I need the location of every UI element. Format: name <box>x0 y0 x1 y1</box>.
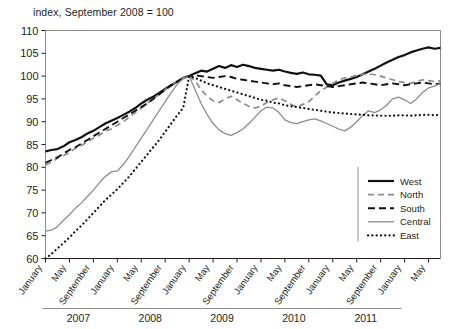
legend-label-north: North <box>400 189 423 200</box>
x-tick-label: May <box>264 262 283 283</box>
x-tick-label: May <box>121 262 140 283</box>
x-tick-label: January <box>375 262 404 296</box>
year-label: 2008 <box>139 312 163 324</box>
y-tick-label: 65 <box>26 230 38 242</box>
x-tick-label: May <box>336 262 355 283</box>
y-tick-label: 85 <box>26 139 38 151</box>
legend-label-south: South <box>400 203 425 214</box>
x-tick-label: January <box>16 262 45 296</box>
x-tick-label: January <box>88 262 117 296</box>
series-line-east <box>46 76 441 258</box>
y-tick-label: 90 <box>26 116 38 128</box>
line-chart: 1101051009590858075706560JanuaryMaySepte… <box>0 0 460 329</box>
chart-container: index, September 2008 = 100 110105100959… <box>0 0 460 329</box>
year-label: 2010 <box>282 312 306 324</box>
x-tick-label: May <box>408 262 427 283</box>
y-tick-label: 75 <box>26 184 38 196</box>
year-label: 2011 <box>354 312 377 324</box>
x-tick-label: January <box>303 262 332 296</box>
y-tick-label: 110 <box>21 25 39 37</box>
legend-label-central: Central <box>400 216 431 227</box>
legend-label-east: East <box>400 230 419 241</box>
series-line-south <box>46 75 441 163</box>
y-tick-label: 95 <box>26 93 38 105</box>
y-tick-label: 105 <box>20 47 38 59</box>
series-line-north <box>46 74 441 165</box>
y-tick-label: 60 <box>26 253 38 265</box>
y-tick-label: 100 <box>20 70 38 82</box>
y-tick-label: 70 <box>26 207 38 219</box>
year-label: 2007 <box>67 312 91 324</box>
x-tick-label: January <box>231 262 260 296</box>
series-line-west <box>46 47 441 151</box>
x-tick-label: May <box>192 262 211 283</box>
year-label: 2009 <box>210 312 234 324</box>
x-tick-label: May <box>49 262 68 283</box>
legend-label-west: West <box>400 176 422 187</box>
x-tick-label: January <box>159 262 188 296</box>
y-tick-label: 80 <box>26 161 38 173</box>
